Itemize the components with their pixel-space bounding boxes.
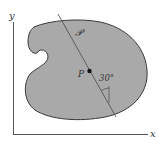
x-axis-label: x (150, 128, 156, 139)
planar-region (25, 20, 147, 120)
point-p (87, 69, 91, 73)
point-p-label: P (77, 69, 85, 79)
diagram-canvas: y x P 𝒫 30° (0, 0, 159, 144)
y-axis-label: y (8, 10, 15, 21)
angle-label: 30° (99, 73, 114, 83)
